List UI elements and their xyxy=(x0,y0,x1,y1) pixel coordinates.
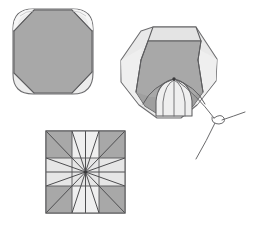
figure1-front-octagon xyxy=(14,10,92,93)
figure2-top-flap xyxy=(148,27,201,41)
fold-arrow-hook-tip xyxy=(222,112,245,120)
figure-3-crease-pattern xyxy=(46,131,125,213)
fold-arrow-tail xyxy=(196,123,215,159)
crease-pattern-center-point xyxy=(84,170,87,173)
apex-reference-dot xyxy=(172,77,175,80)
origami-diagram-svg: Origami folding diagram xyxy=(0,0,253,228)
diagram-root: Origami folding diagram xyxy=(0,0,253,228)
figure-2-petal-fold xyxy=(121,27,245,159)
figure-1-blunted-octagon xyxy=(13,9,93,94)
